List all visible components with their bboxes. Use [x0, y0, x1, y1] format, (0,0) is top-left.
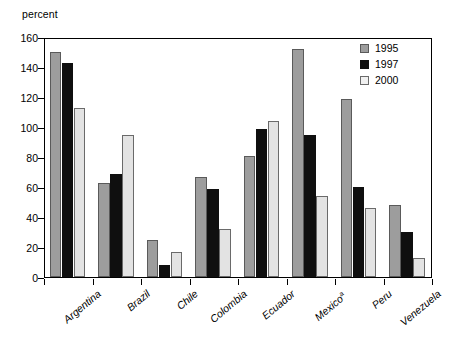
legend-swatch-icon	[360, 76, 369, 85]
bar	[110, 174, 122, 278]
bar	[244, 156, 256, 278]
x-axis-tick-mark	[238, 279, 239, 285]
bar	[62, 63, 74, 278]
y-axis-tick-label: 80	[0, 153, 38, 163]
bar	[98, 183, 110, 278]
bar	[159, 265, 171, 277]
bar	[207, 189, 219, 278]
y-axis-tick-mark	[38, 248, 44, 249]
bar	[304, 135, 316, 278]
x-axis-tick-mark	[287, 279, 288, 285]
bar	[413, 258, 425, 278]
chart-legend: 199519972000	[360, 41, 430, 89]
bar	[147, 240, 159, 278]
y-axis-tick-mark	[38, 128, 44, 129]
x-axis-category-label: Mexicoa	[310, 288, 348, 323]
legend-item-label: 2000	[375, 75, 398, 86]
x-axis-tick-mark	[44, 279, 45, 285]
bar-chart: percent 199519972000 1601401201008060402…	[0, 0, 449, 337]
y-axis-tick-mark	[38, 68, 44, 69]
bar	[353, 187, 365, 277]
y-axis-tick-mark	[38, 218, 44, 219]
x-axis-tick-mark	[335, 279, 336, 285]
y-axis-tick-label: 40	[0, 213, 38, 223]
legend-swatch-icon	[360, 44, 369, 53]
bar	[50, 52, 62, 277]
bar	[268, 121, 280, 277]
x-axis-tick-mark	[384, 279, 385, 285]
y-axis-tick-label: 140	[0, 63, 38, 73]
x-axis-tick-mark	[93, 279, 94, 285]
x-axis-tick-mark	[432, 279, 433, 285]
bar-group	[244, 39, 280, 277]
bar	[365, 208, 377, 277]
bar	[341, 99, 353, 278]
x-axis-category-label: Argentina	[62, 288, 104, 325]
x-axis-tick-mark	[190, 279, 191, 285]
y-axis-tick-mark	[38, 38, 44, 39]
bar-group	[98, 39, 134, 277]
legend-item-label: 1997	[375, 59, 398, 70]
y-axis-tick-mark	[38, 98, 44, 99]
x-axis-category-label: Brazil	[125, 288, 152, 313]
x-axis-category-label: Venezuela	[398, 288, 443, 328]
bar	[256, 129, 268, 278]
y-axis-tick-mark	[38, 158, 44, 159]
bar	[219, 229, 231, 277]
y-axis-tick-label: 120	[0, 93, 38, 103]
x-axis-category-label: Peru	[370, 288, 394, 311]
legend-item-label: 1995	[375, 43, 398, 54]
bar-group	[292, 39, 328, 277]
bar-group	[147, 39, 183, 277]
y-axis-tick-mark	[38, 188, 44, 189]
bar	[401, 232, 413, 277]
legend-item: 1997	[360, 57, 430, 71]
bar	[316, 196, 328, 277]
y-axis-tick-label: 60	[0, 183, 38, 193]
bar-group	[50, 39, 86, 277]
footnote-marker: a	[337, 290, 344, 298]
bar	[292, 49, 304, 277]
y-axis-tick-label: 100	[0, 123, 38, 133]
x-axis-tick-mark	[141, 279, 142, 285]
y-axis-tick-label: 20	[0, 243, 38, 253]
legend-item: 2000	[360, 73, 430, 87]
x-axis-category-label: Chile	[175, 288, 200, 312]
bar	[195, 177, 207, 278]
bar	[74, 108, 86, 278]
bar	[122, 135, 134, 278]
x-axis-category-label: Colombia	[208, 288, 249, 325]
legend-item: 1995	[360, 41, 430, 55]
bar-group	[195, 39, 231, 277]
legend-swatch-icon	[360, 60, 369, 69]
x-axis-category-label: Ecuador	[260, 288, 297, 322]
y-axis-tick-label: 0	[0, 273, 38, 283]
bar	[171, 252, 183, 278]
bar	[389, 205, 401, 277]
y-axis-unit-label: percent	[22, 8, 58, 20]
y-axis-tick-label: 160	[0, 33, 38, 43]
